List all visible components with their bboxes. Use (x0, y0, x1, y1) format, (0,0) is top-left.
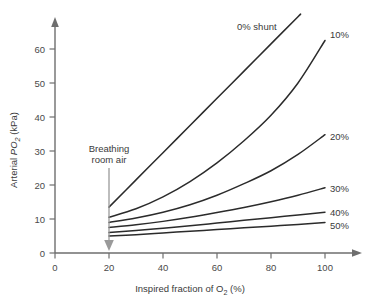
annotation-line-2: room air (92, 154, 127, 165)
x-axis-arrowhead-icon (352, 249, 362, 257)
x-tick-label-0: 0 (52, 262, 57, 273)
curve-shunt-10 (109, 41, 325, 218)
x-axis-tick-labels: 0 20 40 60 80 100 (52, 262, 333, 273)
annotation-line-1: Breathing (89, 143, 130, 154)
curve-labels-group: 0% shunt 10% 20% 30% 40% 50% (237, 21, 350, 231)
curve-label-shunt-40: 40% (330, 207, 350, 218)
curves-group (109, 14, 325, 236)
y-axis-title: Arterial PO2 (kPa) (8, 112, 22, 188)
x-tick-label-60: 60 (212, 262, 223, 273)
annotation-arrowhead-icon (104, 240, 114, 251)
x-tick-label-20: 20 (104, 262, 115, 273)
chart-container: 0 10 20 30 40 50 60 0 20 40 60 80 100 (0, 0, 377, 303)
y-axis-tick-labels: 0 10 20 30 40 50 60 (34, 44, 45, 259)
y-tick-label-20: 20 (34, 180, 45, 191)
curve-label-shunt-0: 0% shunt (237, 21, 277, 32)
x-axis-title: Inspired fraction of O2 (%) (135, 283, 245, 297)
curve-shunt-30 (109, 188, 325, 228)
y-tick-label-60: 60 (34, 44, 45, 55)
y-axis-title-italic: PO (8, 141, 19, 155)
y-axis-ticks (50, 49, 56, 253)
arterial-po2-shunt-chart: 0 10 20 30 40 50 60 0 20 40 60 80 100 (0, 0, 377, 303)
x-tick-label-100: 100 (317, 262, 333, 273)
axes-group (51, 17, 362, 257)
curve-label-shunt-20: 20% (330, 131, 350, 142)
y-tick-label-10: 10 (34, 214, 45, 225)
x-axis-title-prefix: Inspired fraction of O (135, 283, 223, 294)
y-axis-title-prefix: Arterial (8, 155, 19, 188)
curve-label-shunt-30: 30% (330, 183, 350, 194)
curve-label-shunt-10: 10% (330, 29, 350, 40)
x-axis-ticks (55, 253, 325, 259)
y-tick-label-50: 50 (34, 78, 45, 89)
x-axis-title-suffix: (%) (227, 283, 244, 294)
y-tick-label-40: 40 (34, 112, 45, 123)
curve-shunt-0 (109, 14, 301, 207)
y-axis-arrowhead-icon (51, 17, 59, 27)
curve-shunt-20 (109, 135, 325, 223)
x-tick-label-80: 80 (266, 262, 277, 273)
x-tick-label-40: 40 (158, 262, 169, 273)
y-axis-title-suffix: (kPa) (8, 112, 19, 137)
curve-label-shunt-50: 50% (330, 220, 350, 231)
y-tick-label-0: 0 (40, 248, 45, 259)
y-tick-label-30: 30 (34, 146, 45, 157)
